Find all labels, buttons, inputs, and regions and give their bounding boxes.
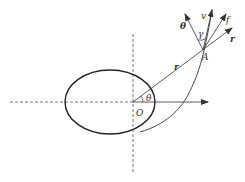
theta-unit-label: θ (180, 21, 186, 31)
gamma-angle-arc (198, 39, 205, 40)
orbit-diagram: O θ r A γ θ v f r (0, 0, 245, 182)
radius-vector-line (133, 28, 232, 102)
force-label: f (225, 15, 231, 25)
theta-angle-arc (141, 96, 143, 102)
gamma-label: γ (198, 29, 204, 39)
point-a-label: A (201, 52, 209, 62)
angle-theta-label: θ (146, 93, 152, 103)
origin-label: O (136, 108, 144, 118)
radius-label: r (174, 62, 180, 72)
velocity-label: v (201, 11, 206, 21)
unit-r-label: r (230, 34, 236, 44)
force-vector-arrow (203, 14, 226, 50)
